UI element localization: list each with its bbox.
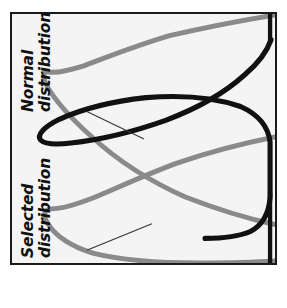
annotation-normal-line2: distribution — [37, 12, 54, 112]
annotation-selected-distribution: Selected distribution — [20, 158, 55, 258]
annotation-selected-line1: Selected — [19, 184, 37, 258]
annotation-normal-line1: Normal — [19, 50, 37, 112]
leader-line-selected — [87, 224, 152, 251]
annotation-selected-line2: distribution — [37, 158, 54, 258]
curve-selected-lower — [45, 137, 275, 263]
distribution-chart-figure: Normal distribution Selected distributio… — [0, 0, 287, 308]
annotation-normal-distribution: Normal distribution — [20, 12, 55, 112]
